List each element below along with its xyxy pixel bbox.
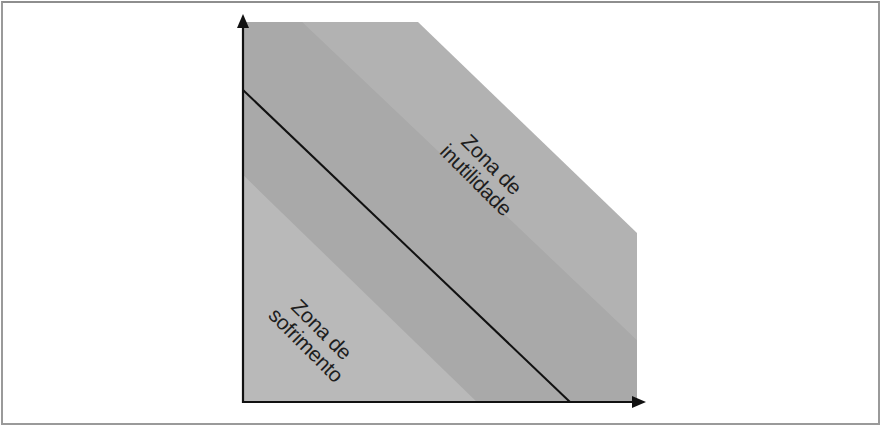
y-axis-arrow-icon <box>237 14 249 28</box>
x-axis-arrow-icon <box>632 396 646 408</box>
zone-diagram: Zona de inutilidade Zona de sofrimento <box>0 0 885 430</box>
